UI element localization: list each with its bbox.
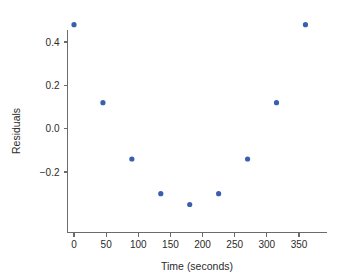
y-tick-label: −0.2	[40, 167, 60, 178]
x-tick-label: 50	[101, 239, 113, 250]
residual-scatter-figure: 0.40.20.0−0.2 050100150200250300350 Time…	[0, 0, 345, 280]
data-point	[100, 100, 105, 105]
data-point	[216, 191, 221, 196]
x-tick-label: 0	[71, 239, 77, 250]
data-point	[158, 191, 163, 196]
data-point	[71, 22, 76, 27]
data-point	[245, 156, 250, 161]
data-point	[274, 100, 279, 105]
x-tick-label: 100	[130, 239, 147, 250]
scatter-plot-canvas: 0.40.20.0−0.2 050100150200250300350 Time…	[0, 0, 345, 280]
data-point	[303, 22, 308, 27]
y-tick-label: 0.4	[46, 37, 60, 48]
x-tick-label: 350	[291, 239, 308, 250]
y-axis-title: Residuals	[10, 108, 22, 154]
y-tick-label: 0.2	[46, 80, 60, 91]
x-tick-label: 200	[194, 239, 211, 250]
x-tick-label: 150	[162, 239, 179, 250]
y-tick-label: 0.0	[46, 123, 60, 134]
data-point	[129, 156, 134, 161]
x-tick-label: 300	[259, 239, 276, 250]
x-tick-label: 250	[226, 239, 243, 250]
data-point	[187, 202, 192, 207]
x-axis-title: Time (seconds)	[161, 260, 233, 272]
